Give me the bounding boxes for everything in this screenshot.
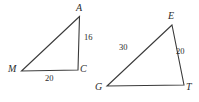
side-length-ac: 16 (84, 33, 93, 42)
triangle-get-outline (107, 25, 184, 86)
side-length-et: 20 (176, 47, 185, 56)
vertex-label-g: G (95, 82, 102, 92)
vertex-label-m: M (8, 64, 16, 74)
geometry-figure: A M C 16 20 E G T 30 20 (0, 0, 199, 102)
vertex-label-t: T (186, 82, 192, 92)
vertex-label-a: A (76, 3, 82, 13)
vertex-label-c: C (80, 64, 87, 74)
side-length-ge: 30 (119, 43, 128, 52)
triangle-mac-outline (22, 17, 80, 72)
vertex-label-e: E (168, 11, 174, 21)
side-length-mc: 20 (45, 74, 54, 83)
